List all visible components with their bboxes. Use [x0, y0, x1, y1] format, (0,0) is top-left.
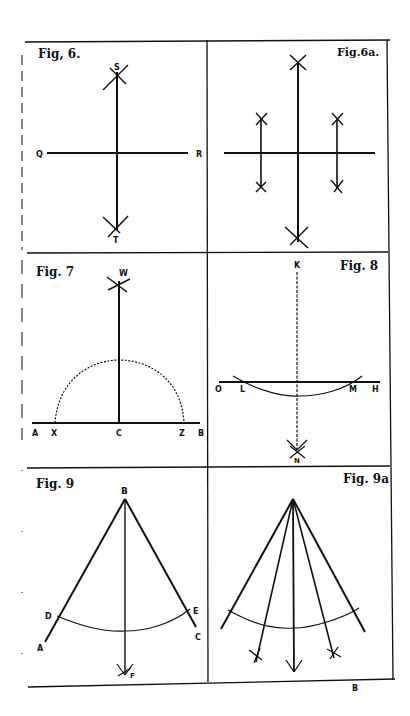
point-a: A	[37, 644, 44, 653]
point-l: L	[240, 385, 245, 394]
point-a: A	[32, 429, 39, 438]
point-w: W	[119, 269, 128, 278]
point-d: D	[45, 612, 52, 621]
figure-7: Fig. 7 W A X C Z B	[32, 265, 204, 438]
point-n: N	[294, 457, 300, 465]
point-r: R	[196, 150, 202, 159]
figure-9: Fig. 9 B D E A C F	[36, 477, 201, 680]
point-b: B	[121, 486, 128, 496]
point-k: K	[294, 261, 301, 270]
point-h: H	[372, 385, 379, 394]
point-q: Q	[36, 150, 43, 159]
figure-6-title: Fig, 6.	[38, 47, 80, 61]
point-c: C	[116, 429, 122, 438]
geometry-plate: Fig, 6. S Q R T Fig.6a. Fig. 7	[0, 0, 410, 716]
figure-6a-title: Fig.6a.	[337, 46, 379, 59]
point-c: C	[195, 633, 201, 642]
point-x: X	[51, 429, 58, 438]
figure-6a: Fig.6a.	[224, 46, 379, 248]
point-e: E	[193, 607, 198, 616]
point-b: B	[198, 429, 204, 438]
point-z: Z	[179, 429, 185, 438]
figure-9-title: Fig. 9	[36, 477, 74, 491]
figure-8-title: Fig. 8	[340, 259, 378, 273]
figure-7-title: Fig. 7	[36, 265, 74, 279]
figure-9a: Fig. 9a	[221, 472, 389, 672]
point-t: T	[113, 236, 119, 245]
figure-9a-title: Fig. 9a	[343, 472, 389, 486]
point-m: M	[349, 385, 357, 394]
plate-footer-letter: B	[352, 684, 358, 693]
figure-6: Fig, 6. S Q R T	[36, 47, 202, 245]
plate-frame	[22, 40, 395, 700]
point-f: F	[130, 672, 135, 680]
point-s: S	[114, 63, 120, 72]
point-o: O	[215, 385, 222, 394]
figure-8: Fig. 8 K O L M H N	[215, 259, 380, 465]
